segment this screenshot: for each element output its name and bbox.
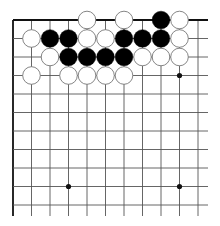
black-stone <box>152 11 170 29</box>
white-stone <box>152 48 170 66</box>
white-stone <box>97 67 115 85</box>
white-stone <box>115 67 133 85</box>
black-stone <box>152 30 170 48</box>
star-point <box>177 184 182 189</box>
white-stone <box>60 67 78 85</box>
white-stone <box>171 11 189 29</box>
black-stone <box>78 48 96 66</box>
white-stone <box>78 11 96 29</box>
white-stone <box>97 30 115 48</box>
star-point <box>177 73 182 78</box>
go-board[interactable] <box>0 0 220 226</box>
black-stone <box>134 30 152 48</box>
black-stone <box>60 48 78 66</box>
star-point <box>66 184 71 189</box>
black-stone <box>97 48 115 66</box>
black-stone <box>115 48 133 66</box>
white-stone <box>171 30 189 48</box>
white-stone <box>171 48 189 66</box>
white-stone <box>78 67 96 85</box>
black-stone <box>115 30 133 48</box>
black-stone <box>60 30 78 48</box>
white-stone <box>134 48 152 66</box>
white-stone <box>41 48 59 66</box>
white-stone <box>78 30 96 48</box>
white-stone <box>23 67 41 85</box>
black-stone <box>41 30 59 48</box>
white-stone <box>23 30 41 48</box>
white-stone <box>115 11 133 29</box>
